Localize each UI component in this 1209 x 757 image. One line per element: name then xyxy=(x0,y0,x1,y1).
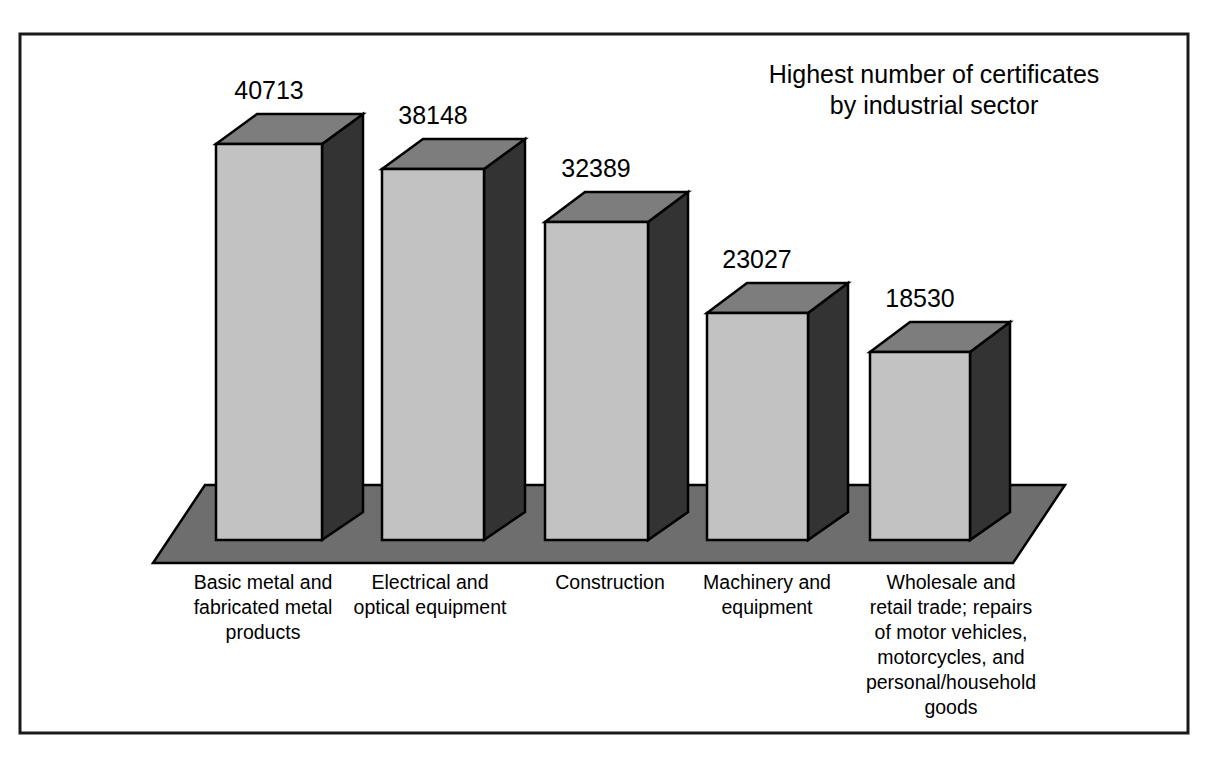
bar-1-value-label: 40713 xyxy=(234,76,304,104)
category-label-2: Electrical and optical equipment xyxy=(354,571,507,618)
chart-title-line-1: Highest number of certificates xyxy=(769,60,1100,88)
bar-group-3[interactable]: 32389 xyxy=(545,154,688,540)
category-4-line-1: Machinery and xyxy=(703,571,831,593)
category-1-line-3: products xyxy=(226,621,301,643)
bar-5-value-label: 18530 xyxy=(885,284,955,312)
chart-title-line-2: by industrial sector xyxy=(830,91,1038,119)
bar-3-front-face xyxy=(545,222,648,540)
bar-group-4[interactable]: 23027 xyxy=(707,245,848,540)
bar-2-front-face xyxy=(382,169,484,540)
bar-1-front-face xyxy=(216,144,322,540)
chart-figure: 18530 23027 32389 38148 4071 xyxy=(0,0,1209,757)
category-5-line-4: motorcycles, and xyxy=(877,646,1024,668)
bar-5-side-face xyxy=(970,322,1010,540)
bar-group-5[interactable]: 18530 xyxy=(870,284,1010,540)
category-label-4: Machinery and equipment xyxy=(703,571,831,618)
bar-chart-svg: 18530 23027 32389 38148 4071 xyxy=(0,0,1209,757)
category-4-line-2: equipment xyxy=(721,596,813,618)
category-label-5: Wholesale and retail trade; repairs of m… xyxy=(866,571,1036,718)
category-5-line-3: of motor vehicles, xyxy=(875,621,1028,643)
category-label-3: Construction xyxy=(555,571,664,593)
bar-4-value-label: 23027 xyxy=(722,245,792,273)
category-5-line-5: personal/household xyxy=(866,671,1036,693)
bar-2-side-face xyxy=(484,139,525,540)
category-2-line-1: Electrical and xyxy=(371,571,488,593)
bar-group-1[interactable]: 40713 xyxy=(216,76,363,540)
bar-3-value-label: 32389 xyxy=(561,154,631,182)
bar-group-2[interactable]: 38148 xyxy=(382,101,525,540)
category-5-line-6: goods xyxy=(924,696,977,718)
bar-5-front-face xyxy=(870,352,970,540)
bar-4-side-face xyxy=(808,283,848,540)
bar-4-front-face xyxy=(707,313,808,540)
category-1-line-1: Basic metal and xyxy=(194,571,333,593)
category-2-line-2: optical equipment xyxy=(354,596,507,618)
category-5-line-1: Wholesale and xyxy=(887,571,1016,593)
category-label-1: Basic metal and fabricated metal product… xyxy=(194,571,333,643)
chart-title: Highest number of certificates by indust… xyxy=(769,60,1100,119)
category-5-line-2: retail trade; repairs xyxy=(870,596,1033,618)
bar-3-side-face xyxy=(648,192,688,540)
category-3-line-1: Construction xyxy=(555,571,664,593)
category-1-line-2: fabricated metal xyxy=(194,596,333,618)
bar-2-value-label: 38148 xyxy=(398,101,468,129)
bar-1-side-face xyxy=(322,114,363,540)
